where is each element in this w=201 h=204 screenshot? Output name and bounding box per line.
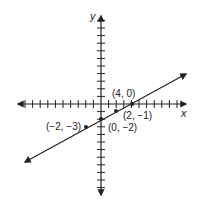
point-label: (4, 0) xyxy=(112,88,135,99)
coordinate-plane: y x (4, 0) (2, −1) (0, −2) (−2, −3) xyxy=(0,0,201,204)
graph-line xyxy=(25,74,186,162)
point-neg2-neg3 xyxy=(84,125,88,129)
point-0-neg2 xyxy=(99,117,103,121)
y-axis-label: y xyxy=(89,10,97,22)
x-axis-label: x xyxy=(180,107,187,119)
point-label: (−2, −3) xyxy=(46,121,81,132)
point-label: (0, −2) xyxy=(108,122,137,133)
point-label: (2, −1) xyxy=(123,110,152,121)
point-2-neg1 xyxy=(114,109,118,113)
point-4-0 xyxy=(130,102,134,106)
